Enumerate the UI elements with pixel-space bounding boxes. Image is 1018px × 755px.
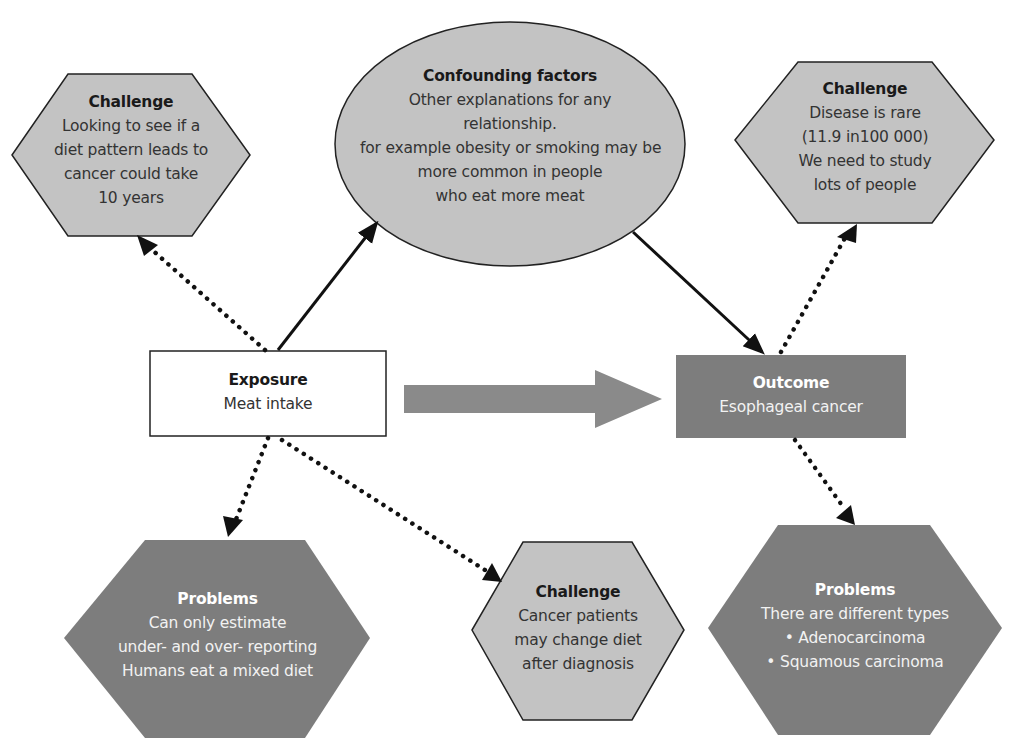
exposure-to-confounding-arrow bbox=[278, 224, 376, 350]
challenge-time-line: diet pattern leads to bbox=[30, 138, 232, 162]
outcome-title: Outcome bbox=[676, 371, 906, 395]
confounding-line: for example obesity or smoking may be bbox=[360, 136, 660, 160]
outcome-to-challenge-rare-dotted-arrow bbox=[781, 238, 845, 352]
arrowhead-icon bbox=[837, 224, 857, 243]
challenge-rare-line: (11.9 in100 000) bbox=[765, 125, 965, 149]
exposure-text: Exposure Meat intake bbox=[150, 368, 386, 416]
challenge-time-title: Challenge bbox=[30, 90, 232, 114]
confounding-title: Confounding factors bbox=[360, 64, 660, 88]
challenge-time-text: Challenge Looking to see if a diet patte… bbox=[30, 90, 232, 210]
challenge-rare-text: Challenge Disease is rare (11.9 in100 00… bbox=[765, 77, 965, 197]
problems-outcome-title: Problems bbox=[745, 578, 965, 602]
outcome-line: Esophageal cancer bbox=[676, 395, 906, 419]
exposure-line: Meat intake bbox=[150, 392, 386, 416]
arrowhead-icon bbox=[836, 505, 855, 525]
challenge-time-line: 10 years bbox=[30, 186, 232, 210]
confounding-to-outcome-arrow bbox=[633, 232, 762, 352]
challenge-diet-change-text: Challenge Cancer patients may change die… bbox=[490, 580, 666, 676]
exposure-to-challenge-time-dotted-arrow bbox=[150, 248, 265, 350]
challenge-diet-change-line: after diagnosis bbox=[490, 652, 666, 676]
challenge-rare-line: Disease is rare bbox=[765, 101, 965, 125]
confounding-line: Other explanations for any bbox=[360, 88, 660, 112]
confounding-line: more common in people bbox=[360, 160, 660, 184]
exposure-to-outcome-block-arrow bbox=[404, 370, 662, 428]
problems-outcome-bullet: • Squamous carcinoma bbox=[745, 650, 965, 674]
problems-outcome-text: Problems There are different types • Ade… bbox=[745, 578, 965, 674]
challenge-time-line: Looking to see if a bbox=[30, 114, 232, 138]
challenge-time-line: cancer could take bbox=[30, 162, 232, 186]
arrowhead-icon bbox=[223, 516, 243, 537]
challenge-diet-change-line: may change diet bbox=[490, 628, 666, 652]
challenge-diet-change-title: Challenge bbox=[490, 580, 666, 604]
challenge-rare-line: We need to study bbox=[765, 149, 965, 173]
problems-outcome-bullet: • Adenocarcinoma bbox=[745, 626, 965, 650]
exposure-to-problems-dotted-arrow bbox=[235, 438, 268, 522]
problems-exposure-text: Problems Can only estimate under- and ov… bbox=[95, 587, 340, 683]
problems-exposure-line: Humans eat a mixed diet bbox=[95, 659, 340, 683]
confounding-line: who eat more meat bbox=[360, 184, 660, 208]
problems-outcome-line: There are different types bbox=[745, 602, 965, 626]
confounding-text: Confounding factors Other explanations f… bbox=[360, 64, 660, 208]
outcome-to-problems-dotted-arrow bbox=[795, 440, 844, 508]
problems-exposure-title: Problems bbox=[95, 587, 340, 611]
challenge-rare-title: Challenge bbox=[765, 77, 965, 101]
problems-exposure-line: Can only estimate bbox=[95, 611, 340, 635]
challenge-rare-line: lots of people bbox=[765, 173, 965, 197]
challenge-diet-change-line: Cancer patients bbox=[490, 604, 666, 628]
confounding-line: relationship. bbox=[360, 112, 660, 136]
exposure-title: Exposure bbox=[150, 368, 386, 392]
problems-exposure-line: under- and over- reporting bbox=[95, 635, 340, 659]
outcome-text: Outcome Esophageal cancer bbox=[676, 371, 906, 419]
